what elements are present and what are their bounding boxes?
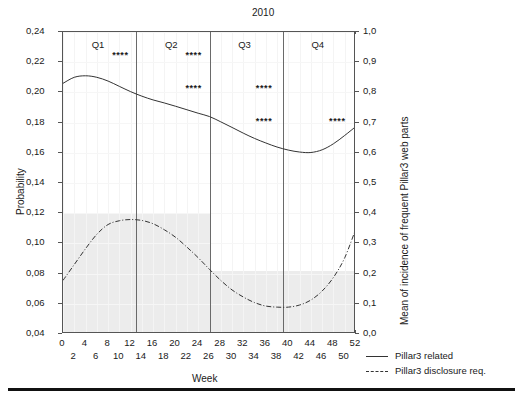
quarter-label-q4: Q4 xyxy=(311,40,324,50)
x-tick-label: 36 xyxy=(259,338,270,348)
x-axis-label: Week xyxy=(192,374,217,384)
y2-tick-label: 0,3 xyxy=(363,237,376,247)
y2-tick-mark xyxy=(355,242,359,243)
x-tick-label: 34 xyxy=(248,351,259,361)
x-tick-mark xyxy=(355,31,356,34)
x-tick-label: 16 xyxy=(147,338,158,348)
y-tick-label: 0,10 xyxy=(26,237,45,247)
y2-tick-label: 0,4 xyxy=(363,207,376,217)
x-tick-label: 24 xyxy=(192,338,203,348)
x-tick-label: 28 xyxy=(214,338,225,348)
quarter-label-q3: Q3 xyxy=(238,40,251,50)
x-tick-label: 12 xyxy=(124,338,135,348)
y-tick-label: 0,14 xyxy=(26,177,45,187)
legend-line-swatch xyxy=(366,371,388,372)
y2-tick-mark xyxy=(355,61,359,62)
x-tick-label: 6 xyxy=(93,351,98,361)
x-tick-label: 0 xyxy=(59,338,64,348)
y2-tick-label: 0,1 xyxy=(363,298,376,308)
y-axis-label: Probability xyxy=(16,168,26,215)
quarter-label-q2: Q2 xyxy=(165,40,178,50)
y2-tick-mark xyxy=(355,212,359,213)
x-tick-label: 30 xyxy=(226,351,237,361)
x-tick-label: 50 xyxy=(338,351,349,361)
x-tick-label: 48 xyxy=(327,338,338,348)
y-tick-label: 0,16 xyxy=(26,147,45,157)
y-tick-label: 0,08 xyxy=(26,268,45,278)
x-tick-label: 10 xyxy=(113,351,124,361)
y-tick-label: 0,12 xyxy=(26,207,45,217)
x-tick-label: 26 xyxy=(203,351,214,361)
y2-tick-mark xyxy=(355,152,359,153)
series-curves xyxy=(63,32,355,333)
y2-tick-mark xyxy=(355,273,359,274)
y2-tick-mark xyxy=(355,333,359,334)
chart-title: 2010 xyxy=(252,8,274,18)
x-tick-label: 38 xyxy=(271,351,282,361)
significance-marker: **** xyxy=(329,117,345,126)
y-tick-label: 0,04 xyxy=(26,328,45,338)
significance-marker: **** xyxy=(112,51,128,60)
x-tick-label: 22 xyxy=(181,351,192,361)
chart-figure: 2010 Probability Mean of incidence of fr… xyxy=(0,0,523,402)
y2-tick-label: 0,5 xyxy=(363,177,376,187)
y2-tick-label: 0,9 xyxy=(363,56,376,66)
significance-marker: **** xyxy=(256,117,272,126)
x-tick-label: 52 xyxy=(350,338,361,348)
y2-tick-label: 0,0 xyxy=(363,328,376,338)
x-tick-label: 2 xyxy=(71,351,76,361)
y2-tick-label: 0,7 xyxy=(363,117,376,127)
legend-label: Pillar3 disclosure req. xyxy=(395,365,486,376)
y2-axis-label: Mean of incidence of frequent Pillar3 we… xyxy=(400,117,410,325)
x-tick-label: 14 xyxy=(135,351,146,361)
plot-area: Q1Q2Q3Q4 ************************ xyxy=(62,31,355,333)
series-line xyxy=(63,76,355,153)
y-tick-label: 0,20 xyxy=(26,86,45,96)
x-tick-label: 18 xyxy=(158,351,169,361)
x-tick-label: 44 xyxy=(305,338,316,348)
x-tick-label: 40 xyxy=(282,338,293,348)
x-tick-label: 20 xyxy=(169,338,180,348)
x-tick-label: 46 xyxy=(316,351,327,361)
x-tick-label: 32 xyxy=(237,338,248,348)
x-tick-mark xyxy=(355,330,356,333)
y2-tick-mark xyxy=(355,122,359,123)
legend-line-swatch xyxy=(366,356,388,357)
series-line xyxy=(63,220,355,308)
y2-tick-label: 0,2 xyxy=(363,268,376,278)
y-tick-mark xyxy=(58,333,62,334)
y2-tick-mark xyxy=(355,303,359,304)
y-tick-label: 0,06 xyxy=(26,298,45,308)
y-tick-label: 0,18 xyxy=(26,117,45,127)
y2-tick-mark xyxy=(355,91,359,92)
y2-tick-mark xyxy=(355,182,359,183)
y-tick-label: 0,24 xyxy=(26,26,45,36)
x-tick-label: 42 xyxy=(293,351,304,361)
y2-tick-label: 0,8 xyxy=(363,86,376,96)
y2-tick-label: 1,0 xyxy=(363,26,376,36)
y-tick-label: 0,22 xyxy=(26,56,45,66)
significance-marker: **** xyxy=(256,84,272,93)
legend-label: Pillar3 related xyxy=(395,350,453,361)
x-tick-label: 4 xyxy=(82,338,87,348)
y2-tick-label: 0,6 xyxy=(363,147,376,157)
bottom-rule xyxy=(8,388,515,391)
quarter-label-q1: Q1 xyxy=(92,40,105,50)
x-tick-label: 8 xyxy=(104,338,109,348)
significance-marker: **** xyxy=(185,84,201,93)
significance-marker: **** xyxy=(185,51,201,60)
